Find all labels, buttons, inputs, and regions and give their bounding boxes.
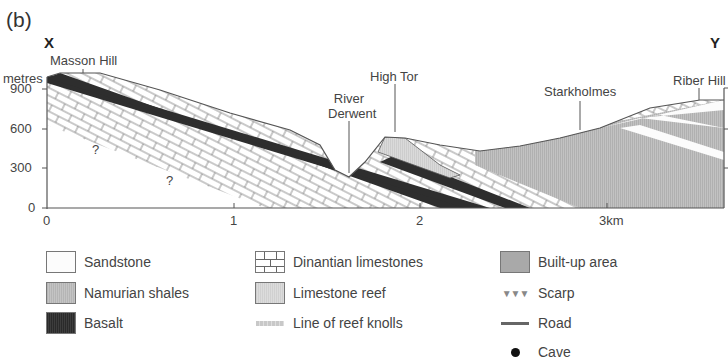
- reef-knolls-line-icon: [255, 321, 285, 326]
- scarp-icon: ▼▼▼: [500, 288, 530, 299]
- legend-limestone-reef: Limestone reef: [255, 281, 386, 305]
- reef-swatch: [255, 282, 285, 304]
- label-high-tor: High Tor: [370, 69, 418, 84]
- legend-sandstone: Sandstone: [46, 250, 151, 274]
- unknown-marker-2: ?: [166, 173, 173, 188]
- x-tick-0: 0: [43, 213, 50, 228]
- built-up-swatch: [500, 251, 530, 273]
- cave-dot-icon: [500, 348, 530, 357]
- legend-namurian-shales: Namurian shales: [46, 281, 189, 305]
- y-tick-0: 0: [28, 200, 35, 215]
- x-tick-1: 1: [230, 213, 237, 228]
- y-tick-600: 600: [10, 121, 32, 136]
- legend-scarp: ▼▼▼ Scarp: [500, 281, 575, 305]
- legend-cave: Cave: [500, 340, 571, 364]
- label-starkholmes: Starkholmes: [544, 84, 616, 99]
- road-line-icon: [500, 322, 530, 325]
- legend-road: Road: [500, 311, 571, 335]
- limestone-swatch: [255, 251, 285, 273]
- river-derwent-line1: River: [328, 91, 370, 106]
- y-tick-900: 900: [10, 81, 32, 96]
- y-tick-300: 300: [10, 160, 32, 175]
- x-tick-2: 2: [416, 213, 423, 228]
- label-river-derwent: River Derwent: [328, 91, 370, 121]
- unknown-marker-1: ?: [92, 142, 99, 157]
- legend-reef-knolls: Line of reef knolls: [255, 311, 403, 335]
- label-masson-hill: Masson Hill: [50, 53, 117, 68]
- basalt-swatch: [46, 312, 76, 334]
- label-riber-hill: Riber Hill: [673, 73, 726, 88]
- sandstone-swatch: [46, 251, 76, 273]
- legend-built-up-area: Built-up area: [500, 250, 617, 274]
- legend-basalt: Basalt: [46, 311, 123, 335]
- shales-swatch: [46, 282, 76, 304]
- river-derwent-line2: Derwent: [328, 106, 370, 121]
- x-tick-3km: 3km: [599, 213, 624, 228]
- legend-dinantian-limestones: Dinantian limestones: [255, 250, 423, 274]
